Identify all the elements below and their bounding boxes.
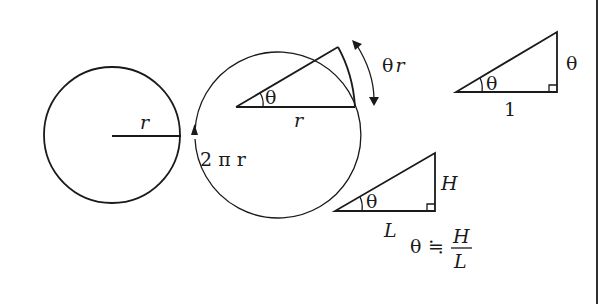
general-triangle-panel: θ H L θ ≒ H L xyxy=(335,153,472,272)
circumference-label: 2 π r xyxy=(200,148,247,170)
unit-right-triangle xyxy=(456,32,557,92)
arc-arrow-head-bottom-icon xyxy=(369,97,379,106)
arc-arrow-head-top-icon xyxy=(352,40,362,50)
general-angle-label: θ xyxy=(366,190,377,212)
unit-base-label: 1 xyxy=(504,98,516,120)
diagram-svg: r 2 π r θ r θr θ 1 xyxy=(0,0,615,304)
formula-lhs: θ xyxy=(410,235,421,257)
sector-angle-arc xyxy=(260,93,263,107)
unit-height-label: θ xyxy=(566,52,577,74)
formula-relation: ≒ xyxy=(428,235,444,257)
unit-angle-label: θ xyxy=(486,72,497,94)
formula-denominator: L xyxy=(453,250,467,272)
arc-length-double-arrow xyxy=(356,44,374,100)
general-height-label: H xyxy=(440,172,458,194)
unit-triangle-panel: θ 1 θ xyxy=(456,32,577,120)
general-angle-arc xyxy=(360,197,362,211)
unit-right-angle-mark xyxy=(549,85,557,92)
arc-length-theta: θ xyxy=(382,54,393,76)
diagram-canvas: r 2 π r θ r θr θ 1 xyxy=(0,0,615,304)
circle-panel: r 2 π r xyxy=(44,52,361,218)
sector-angle-label: θ xyxy=(265,86,276,108)
sector-radius-label: r xyxy=(294,109,305,131)
general-right-angle-mark xyxy=(427,204,435,211)
unit-angle-arc xyxy=(480,78,482,92)
outer-circumference-circle xyxy=(195,52,361,218)
circumference-text: 2 π r xyxy=(200,148,247,170)
arc-length-label: θr xyxy=(382,54,406,76)
circumference-arrow-icon xyxy=(191,124,198,135)
inner-circle xyxy=(44,67,180,203)
formula-numerator: H xyxy=(452,225,470,247)
approximation-formula: θ ≒ H L xyxy=(410,225,472,272)
circle-radius-label: r xyxy=(140,111,151,133)
general-right-triangle xyxy=(335,153,435,211)
general-base-label: L xyxy=(383,219,397,241)
arc-length-r: r xyxy=(395,54,406,76)
